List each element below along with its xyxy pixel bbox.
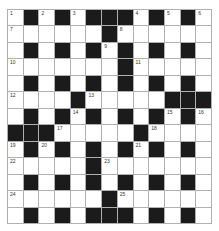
grid-cell-r10-c2[interactable] — [39, 175, 55, 191]
grid-cell-r7-c10[interactable] — [165, 125, 181, 141]
grid-cell-r8-c12[interactable] — [196, 142, 212, 158]
grid-cell-r10-c8[interactable] — [134, 175, 150, 191]
grid-cell-r12-c12[interactable] — [196, 208, 212, 224]
grid-cell-r4-c8[interactable] — [134, 76, 150, 92]
grid-cell-r9-c4[interactable] — [71, 158, 87, 174]
grid-cell-r11-c1[interactable] — [24, 191, 40, 207]
grid-cell-r11-c12[interactable] — [196, 191, 212, 207]
grid-cell-r1-c9[interactable] — [149, 26, 165, 42]
grid-cell-r2-c12[interactable] — [196, 43, 212, 59]
grid-cell-r1-c5[interactable] — [86, 26, 102, 42]
grid-cell-r5-c0[interactable]: 12 — [8, 92, 24, 108]
grid-cell-r1-c2[interactable] — [39, 26, 55, 42]
grid-cell-r10-c10[interactable] — [165, 175, 181, 191]
grid-cell-r1-c4[interactable] — [71, 26, 87, 42]
grid-cell-r9-c10[interactable] — [165, 158, 181, 174]
grid-cell-r10-c6[interactable] — [102, 175, 118, 191]
grid-cell-r1-c1[interactable] — [24, 26, 40, 42]
grid-cell-r6-c2[interactable] — [39, 109, 55, 125]
grid-cell-r0-c12[interactable]: 6 — [196, 10, 212, 26]
grid-cell-r4-c6[interactable] — [102, 76, 118, 92]
grid-cell-r6-c4[interactable]: 14 — [71, 109, 87, 125]
grid-cell-r3-c12[interactable] — [196, 59, 212, 75]
grid-cell-r12-c8[interactable] — [134, 208, 150, 224]
grid-cell-r1-c0[interactable]: 7 — [8, 26, 24, 42]
grid-cell-r6-c8[interactable] — [134, 109, 150, 125]
grid-cell-r3-c1[interactable] — [24, 59, 40, 75]
grid-cell-r9-c1[interactable] — [24, 158, 40, 174]
grid-cell-r5-c7[interactable] — [118, 92, 134, 108]
grid-cell-r3-c5[interactable] — [86, 59, 102, 75]
grid-cell-r6-c6[interactable] — [102, 109, 118, 125]
grid-cell-r7-c3[interactable]: 17 — [55, 125, 71, 141]
grid-cell-r3-c4[interactable] — [71, 59, 87, 75]
grid-cell-r9-c6[interactable]: 23 — [102, 158, 118, 174]
grid-cell-r10-c12[interactable] — [196, 175, 212, 191]
grid-cell-r0-c8[interactable]: 4 — [134, 10, 150, 26]
grid-cell-r9-c9[interactable] — [149, 158, 165, 174]
grid-cell-r9-c7[interactable] — [118, 158, 134, 174]
grid-cell-r4-c2[interactable] — [39, 76, 55, 92]
grid-cell-r7-c9[interactable]: 18 — [149, 125, 165, 141]
grid-cell-r4-c10[interactable] — [165, 76, 181, 92]
grid-cell-r7-c5[interactable] — [86, 125, 102, 141]
grid-cell-r11-c4[interactable] — [71, 191, 87, 207]
grid-cell-r3-c0[interactable]: 10 — [8, 59, 24, 75]
grid-cell-r11-c2[interactable] — [39, 191, 55, 207]
grid-cell-r11-c10[interactable] — [165, 191, 181, 207]
grid-cell-r2-c0[interactable] — [8, 43, 24, 59]
grid-cell-r7-c4[interactable] — [71, 125, 87, 141]
grid-cell-r3-c6[interactable] — [102, 59, 118, 75]
grid-cell-r11-c11[interactable] — [181, 191, 197, 207]
grid-cell-r9-c11[interactable] — [181, 158, 197, 174]
grid-cell-r8-c0[interactable]: 19 — [8, 142, 24, 158]
grid-cell-r3-c2[interactable] — [39, 59, 55, 75]
grid-cell-r2-c10[interactable] — [165, 43, 181, 59]
grid-cell-r7-c6[interactable] — [102, 125, 118, 141]
grid-cell-r7-c7[interactable] — [118, 125, 134, 141]
grid-cell-r0-c4[interactable]: 3 — [71, 10, 87, 26]
grid-cell-r6-c0[interactable] — [8, 109, 24, 125]
grid-cell-r6-c10[interactable]: 15 — [165, 109, 181, 125]
grid-cell-r5-c8[interactable] — [134, 92, 150, 108]
grid-cell-r11-c7[interactable]: 25 — [118, 191, 134, 207]
grid-cell-r2-c8[interactable] — [134, 43, 150, 59]
grid-cell-r12-c0[interactable] — [8, 208, 24, 224]
grid-cell-r8-c6[interactable] — [102, 142, 118, 158]
grid-cell-r5-c9[interactable] — [149, 92, 165, 108]
grid-cell-r5-c3[interactable] — [55, 92, 71, 108]
grid-cell-r11-c3[interactable] — [55, 191, 71, 207]
grid-cell-r1-c8[interactable] — [134, 26, 150, 42]
grid-cell-r2-c2[interactable] — [39, 43, 55, 59]
grid-cell-r4-c4[interactable] — [71, 76, 87, 92]
grid-cell-r11-c8[interactable] — [134, 191, 150, 207]
grid-cell-r2-c4[interactable] — [71, 43, 87, 59]
grid-cell-r11-c9[interactable] — [149, 191, 165, 207]
grid-cell-r12-c2[interactable] — [39, 208, 55, 224]
grid-cell-r1-c3[interactable] — [55, 26, 71, 42]
grid-cell-r9-c0[interactable]: 22 — [8, 158, 24, 174]
grid-cell-r8-c10[interactable] — [165, 142, 181, 158]
grid-cell-r7-c12[interactable] — [196, 125, 212, 141]
grid-cell-r5-c6[interactable] — [102, 92, 118, 108]
grid-cell-r10-c0[interactable] — [8, 175, 24, 191]
grid-cell-r5-c5[interactable]: 13 — [86, 92, 102, 108]
grid-cell-r9-c3[interactable] — [55, 158, 71, 174]
grid-cell-r12-c4[interactable] — [71, 208, 87, 224]
grid-cell-r8-c2[interactable]: 20 — [39, 142, 55, 158]
grid-cell-r3-c9[interactable] — [149, 59, 165, 75]
grid-cell-r1-c7[interactable]: 8 — [118, 26, 134, 42]
grid-cell-r3-c8[interactable]: 11 — [134, 59, 150, 75]
grid-cell-r0-c0[interactable]: 1 — [8, 10, 24, 26]
grid-cell-r0-c10[interactable]: 5 — [165, 10, 181, 26]
grid-cell-r3-c11[interactable] — [181, 59, 197, 75]
grid-cell-r9-c8[interactable] — [134, 158, 150, 174]
grid-cell-r2-c6[interactable]: 9 — [102, 43, 118, 59]
grid-cell-r7-c11[interactable] — [181, 125, 197, 141]
grid-cell-r11-c0[interactable]: 24 — [8, 191, 24, 207]
grid-cell-r8-c8[interactable]: 21 — [134, 142, 150, 158]
grid-cell-r1-c11[interactable] — [181, 26, 197, 42]
grid-cell-r9-c12[interactable] — [196, 158, 212, 174]
grid-cell-r4-c0[interactable] — [8, 76, 24, 92]
grid-cell-r8-c4[interactable] — [71, 142, 87, 158]
